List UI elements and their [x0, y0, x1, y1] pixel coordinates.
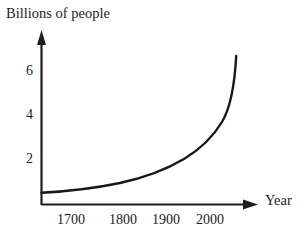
population-growth-chart: Billions of people Year 6 4 2 1700 1800 …	[0, 0, 307, 244]
x-tick-label-2000: 2000	[188, 213, 232, 227]
chart-plot-area	[0, 0, 307, 244]
y-axis-label: Billions of people	[6, 6, 110, 21]
x-axis-arrowhead	[243, 200, 258, 210]
x-axis-label: Year	[265, 193, 292, 208]
x-tick-label-1800: 1800	[101, 213, 145, 227]
population-curve	[42, 56, 237, 193]
x-tick-label-1900: 1900	[144, 213, 188, 227]
y-axis-arrowhead	[37, 30, 46, 45]
y-tick-label-2: 2	[17, 152, 33, 166]
x-tick-label-1700: 1700	[49, 213, 93, 227]
y-tick-label-4: 4	[17, 108, 33, 122]
y-tick-label-6: 6	[17, 64, 33, 78]
